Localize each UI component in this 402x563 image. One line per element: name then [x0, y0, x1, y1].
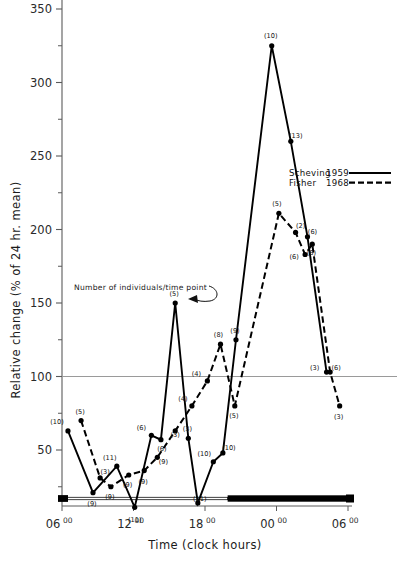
sample-size-label: (11) [193, 495, 207, 503]
data-point [90, 490, 95, 495]
annotation-arrow-head [188, 295, 198, 303]
data-point [218, 342, 223, 347]
legend-author: Scheving [289, 168, 331, 178]
sample-size-label: (3) [334, 413, 343, 421]
x-tick-label: 0000 [260, 516, 287, 531]
y-tick-label: 100 [30, 370, 52, 384]
series-line [81, 213, 340, 486]
sample-size-label: (5) [272, 200, 281, 208]
series-line [68, 46, 327, 508]
y-tick-label: 50 [37, 443, 52, 457]
sample-size-labels: (10)(9)(11)(11)(6)(6)(5)(3)(11)(10)(10)(… [50, 32, 343, 525]
data-point [337, 403, 342, 408]
data-point [293, 230, 298, 235]
data-point [98, 475, 103, 480]
sample-size-label: (5) [229, 412, 238, 420]
data-point [114, 464, 119, 469]
sample-size-label: (9) [123, 481, 132, 489]
sample-size-label: (2) [296, 222, 305, 230]
axes: 50100150200250300350Relative change (% o… [9, 0, 359, 552]
sample-size-label: (4) [192, 370, 201, 378]
y-tick-label: 350 [30, 2, 52, 16]
data-point [276, 211, 281, 216]
legend-author: Fisher [289, 178, 316, 188]
annotation-group: Number of individuals/time point [74, 283, 217, 303]
x-tick-label: 1800 [189, 516, 216, 531]
x-tick-minutes: 00 [278, 516, 288, 525]
data-point [158, 437, 163, 442]
sample-size-label: (6) [308, 228, 317, 236]
legend-year: 1959 [326, 168, 349, 178]
data-point [233, 337, 238, 342]
data-point [108, 484, 113, 489]
sample-size-label: (8) [214, 331, 223, 339]
data-point [232, 403, 237, 408]
daynight-right-cap [346, 495, 354, 503]
data-point [269, 43, 274, 48]
sample-size-label: (6) [331, 364, 340, 372]
series-scheving-1959 [65, 43, 329, 510]
data-point [65, 428, 70, 433]
sample-size-label: (6) [289, 253, 298, 261]
sample-size-label: (6) [157, 445, 166, 453]
data-point [310, 242, 315, 247]
data-point [126, 472, 131, 477]
y-tick-label: 250 [30, 149, 52, 163]
x-tick-hour: 00 [260, 517, 275, 531]
sample-size-label: (3) [310, 364, 319, 372]
x-tick-minutes: 00 [63, 516, 73, 525]
data-point [205, 378, 210, 383]
sample-size-label: (11) [128, 516, 142, 524]
legend: Scheving1959Fisher1968 [289, 168, 391, 188]
x-tick-label: 0600 [332, 516, 359, 531]
x-axis-title: Time (clock hours) [147, 538, 262, 552]
sample-size-label: (10) [198, 450, 212, 458]
legend-item-2: Fisher1968 [289, 178, 391, 188]
sample-size-label: (9) [87, 500, 96, 508]
y-tick-label: 300 [30, 76, 52, 90]
legend-item-1: Scheving1959 [289, 168, 391, 178]
data-point [132, 505, 137, 510]
sample-size-label: (10) [222, 444, 236, 452]
chart-figure: 50100150200250300350Relative change (% o… [0, 0, 402, 563]
sample-size-label: (3) [171, 431, 180, 439]
x-tick-hour: 18 [189, 517, 204, 531]
x-tick-hour: 06 [332, 517, 347, 531]
sample-size-label: (3) [183, 425, 192, 433]
sample-size-label: (9) [139, 478, 148, 486]
data-point [189, 403, 194, 408]
data-point [186, 436, 191, 441]
sample-size-label: (9) [105, 493, 114, 501]
chart-svg: 50100150200250300350Relative change (% o… [0, 0, 402, 563]
sample-size-label: (11) [103, 454, 117, 462]
x-tick-minutes: 00 [206, 516, 216, 525]
y-axis-title: Relative change (% of 24 hr. mean) [9, 181, 23, 398]
sample-size-label: (4) [178, 395, 187, 403]
y-tick-label: 200 [30, 223, 52, 237]
data-point [149, 433, 154, 438]
sample-size-label: (9) [230, 327, 239, 335]
x-tick-hour: 06 [46, 517, 61, 531]
legend-year: 1968 [326, 178, 349, 188]
daynight-left-cap [58, 495, 68, 502]
sample-size-label: (3) [100, 468, 109, 476]
series-group [65, 43, 342, 510]
sample-size-label: (9) [159, 458, 168, 466]
sample-size-label: (5) [75, 408, 84, 416]
x-tick-minutes: 00 [349, 516, 359, 525]
sample-size-label: (10) [264, 32, 278, 40]
daynight-dark-segment [228, 495, 348, 501]
data-point [78, 418, 83, 423]
x-tick-label: 0600 [46, 516, 73, 531]
data-point [173, 300, 178, 305]
sample-size-label: (13) [289, 132, 303, 140]
data-point [211, 459, 216, 464]
data-point [142, 468, 147, 473]
annotation-text: Number of individuals/time point [74, 283, 207, 292]
series-fisher-1968 [78, 211, 342, 490]
sample-size-label: (6) [137, 424, 146, 432]
sample-size-label: (10) [50, 418, 64, 426]
y-tick-label: 150 [30, 296, 52, 310]
sample-size-label: (6) [307, 249, 316, 257]
